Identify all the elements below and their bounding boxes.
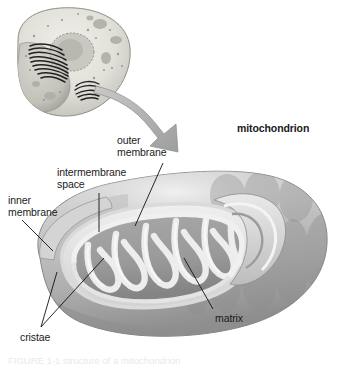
label-intermembrane-space: intermembrane space [57,166,126,190]
label-inner-membrane: inner membrane [8,194,57,218]
label-matrix: matrix [215,312,243,324]
mitochondrion-illustration [36,168,337,350]
label-outer-membrane: outer membrane [117,134,166,158]
label-cristae: cristae [20,331,50,343]
figure-caption: FIGURE 1-1 structure of a mitochondrion [8,355,181,366]
figure-illustration [0,0,339,368]
label-mitochondrion: mitochondrion [237,122,309,134]
animal-cell-inset [14,8,132,127]
mitochondrion-figure: mitochondrion outer membrane intermembra… [0,0,339,368]
